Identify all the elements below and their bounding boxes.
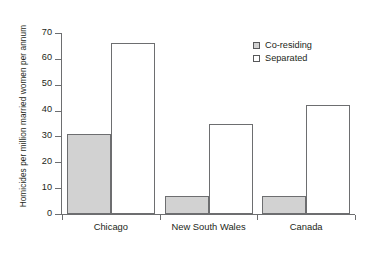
x-axis-label-canada: Canada bbox=[290, 222, 323, 231]
y-axis-tick-label: 0 bbox=[47, 209, 52, 218]
bar-canada-separated bbox=[306, 105, 350, 214]
y-axis-tick: 0 bbox=[55, 214, 61, 215]
x-axis-line bbox=[61, 214, 355, 215]
y-axis-tick: 30 bbox=[55, 136, 61, 137]
legend-label: Separated bbox=[265, 54, 307, 63]
x-axis-tick bbox=[160, 215, 161, 220]
legend-item-co-residing: Co-residing bbox=[253, 39, 312, 52]
bar-new-south-wales-co-residing bbox=[165, 196, 209, 214]
legend-swatch-icon bbox=[253, 55, 260, 62]
y-axis-tick-label: 10 bbox=[42, 183, 52, 192]
bar-chart: Homicides per million married women per … bbox=[0, 0, 384, 259]
chart-legend: Co-residingSeparated bbox=[253, 39, 312, 65]
y-axis-tick-label: 40 bbox=[42, 105, 52, 114]
y-axis-tick: 60 bbox=[55, 59, 61, 60]
y-axis-tick-label: 20 bbox=[42, 157, 52, 166]
y-axis-tick: 50 bbox=[55, 85, 61, 86]
y-axis-tick-label: 50 bbox=[42, 79, 52, 88]
x-axis-tick bbox=[62, 215, 63, 220]
x-axis-tick bbox=[355, 215, 356, 220]
legend-item-separated: Separated bbox=[253, 52, 312, 65]
y-axis-tick-label: 70 bbox=[42, 28, 52, 37]
bar-chicago-separated bbox=[111, 43, 155, 214]
legend-swatch-icon bbox=[253, 42, 260, 49]
bar-chicago-co-residing bbox=[67, 134, 111, 214]
x-axis-label-chicago: Chicago bbox=[94, 222, 128, 231]
bar-new-south-wales-separated bbox=[209, 124, 253, 215]
x-axis-label-new-south-wales: New South Wales bbox=[171, 222, 245, 231]
y-axis-tick-label: 30 bbox=[42, 131, 52, 140]
y-axis-tick: 70 bbox=[55, 33, 61, 34]
y-axis-tick: 40 bbox=[55, 111, 61, 112]
y-axis-tick: 10 bbox=[55, 188, 61, 189]
y-axis-tick-label: 60 bbox=[42, 53, 52, 62]
y-axis-title: Homicides per million married women per … bbox=[20, 6, 28, 226]
y-axis-tick: 20 bbox=[55, 162, 61, 163]
legend-label: Co-residing bbox=[265, 41, 312, 50]
bar-canada-co-residing bbox=[262, 196, 306, 214]
x-axis-tick bbox=[257, 215, 258, 220]
